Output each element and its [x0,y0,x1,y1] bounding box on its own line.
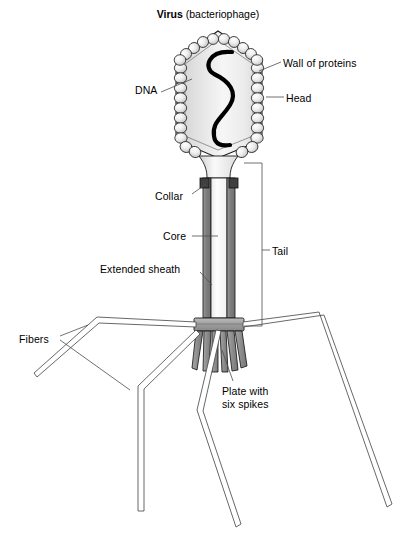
extended-sheath-right [227,178,235,318]
label-wall-of-proteins: Wall of proteins [283,57,357,70]
label-fibers: Fibers [19,333,49,346]
neck [199,156,238,178]
fiber-left-upper [34,317,196,377]
label-plate-line2: six spikes [222,398,269,411]
tail-fibers-group [34,312,392,527]
label-collar: Collar [155,190,183,203]
spike-4 [220,331,228,372]
extended-sheath-left [203,178,211,318]
bacteriophage-diagram: Virus (bacteriophage) [0,0,416,534]
tail-assembly [199,156,238,318]
collar-right [229,178,238,188]
tail-bracket [244,163,262,326]
head-capsid [174,31,264,160]
label-head: Head [286,92,312,105]
label-extended-sheath: Extended sheath [100,263,180,276]
label-core: Core [163,230,186,243]
plate-with-six-spikes [194,318,244,331]
label-dna: DNA [135,84,157,97]
label-plate-with-six-spikes: Plate with six spikes [222,385,269,411]
leader-fibers-b [60,340,130,390]
label-plate-line1: Plate with [222,385,269,397]
phage-illustration [0,0,416,534]
label-tail: Tail [272,245,288,258]
collar-left [200,178,209,188]
baseplate [194,318,244,331]
core [211,178,227,318]
fiber-left-lower [138,330,200,511]
